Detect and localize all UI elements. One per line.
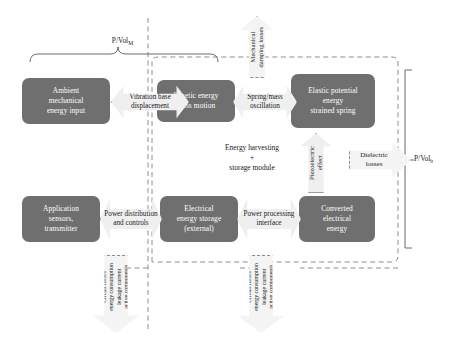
box-elastic-potential-energy-strained-spring: Elastic potential energy strained spring xyxy=(291,74,375,128)
arrow-circuit-losses-left-label: Circuit lossesenergy consumptionleakage … xyxy=(101,263,131,311)
arrow-circuit-losses-left: Circuit lossesenergy consumptionleakage … xyxy=(92,255,140,333)
label-pvol-battery: P/Volb xyxy=(414,154,459,166)
diagram-canvas: P/VolM P/Volb Ambient mechanical energy … xyxy=(0,0,459,343)
arrow-circuit-losses-right: Circuit lossesenergy consumptionleakage … xyxy=(237,255,285,333)
box-electrical-energy-storage-external: Electrical energy storage (external) xyxy=(160,196,238,242)
arrow-vibration-base-displacement: Vibration base displacement xyxy=(111,85,189,119)
box-converted-electrical-energy: Converted electrical energy xyxy=(299,196,375,242)
arrow-power-processing-interface: Power processing interface xyxy=(237,198,301,240)
label-energy-harvesting-storage-module: Energy harvesting + storage module xyxy=(205,143,299,173)
arrow-dielectric-losses: Dielectric losses xyxy=(349,142,411,178)
arrow-power-distribution-and-controls: Power distribution and controls xyxy=(100,198,162,240)
arrow-circuit-losses-right-label: Circuit lossesenergy consumptionleakage … xyxy=(246,263,276,311)
arrow-spring-mass-oscillation: Spring/mass oscillation xyxy=(233,85,297,119)
box-application-sensors-transmitter: Application sensors, transmitter xyxy=(22,196,100,242)
arrow-piezoelectric-effect: Piezoelectriceffect xyxy=(300,133,332,193)
label-pvol-mechanical: P/VolM xyxy=(95,36,150,48)
box-ambient-mechanical-energy-input: Ambient mechanical energy input xyxy=(22,78,110,124)
arrow-dielectric-losses-label: Dielectric losses xyxy=(360,151,400,169)
arrow-mechanical-damping-losses-label: Mechanicaldamping losses xyxy=(249,27,265,67)
arrow-mechanical-damping-losses: Mechanicaldamping losses xyxy=(240,16,274,78)
arrow-piezoelectric-effect-label: Piezoelectriceffect xyxy=(308,146,324,180)
